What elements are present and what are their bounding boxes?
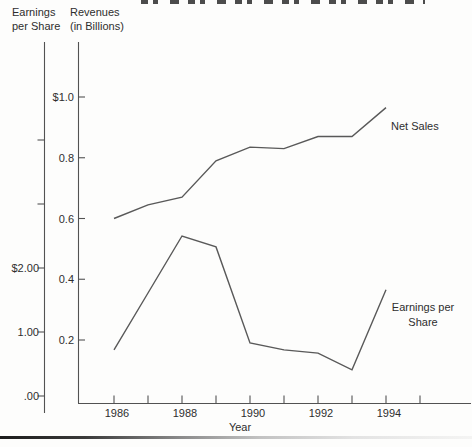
x-axis-label: Year — [215, 421, 265, 434]
y-left-tick-label: 1.00 — [6, 326, 39, 339]
x-tick-label: 1990 — [236, 407, 270, 420]
y-left-tick-label: .00 — [6, 390, 39, 403]
y-left-tick-label: $2.00 — [6, 262, 39, 275]
figure-page: Earnings per Share Revenues (in Billions… — [0, 0, 472, 447]
y-right-tick-label: 0.8 — [46, 152, 74, 165]
x-tick-label: 1994 — [372, 407, 406, 420]
series-label-net-sales: Net Sales — [391, 120, 439, 133]
y-right-tick-label: 0.4 — [46, 273, 74, 286]
x-tick-label: 1986 — [100, 407, 134, 420]
y-right-tick-label: $1.0 — [46, 91, 74, 104]
y-right-tick-label: 0.2 — [46, 334, 74, 347]
y-right-tick-label: 0.6 — [46, 213, 74, 226]
x-tick-label: 1992 — [304, 407, 338, 420]
series-label-eps-line2: Share — [388, 315, 458, 330]
x-tick-label: 1988 — [168, 407, 202, 420]
series-label-earnings-per-share: Earnings per Share — [388, 300, 458, 329]
series-label-eps-line1: Earnings per — [388, 300, 458, 315]
bottom-rule — [0, 436, 472, 439]
